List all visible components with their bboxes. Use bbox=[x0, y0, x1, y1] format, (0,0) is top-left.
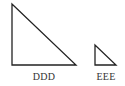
label-ddd: DDD bbox=[33, 71, 56, 82]
label-eee: EEE bbox=[96, 71, 115, 82]
triangle-ddd bbox=[12, 4, 76, 65]
diagram-canvas: DDD EEE bbox=[0, 0, 125, 86]
triangle-eee bbox=[95, 45, 116, 65]
